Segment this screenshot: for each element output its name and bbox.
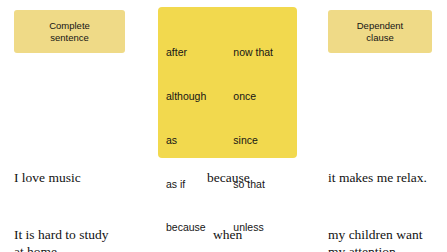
example-dependent-clause: it makes me relax. [328, 170, 427, 187]
conjunction-item: after [166, 45, 233, 60]
example-conjunction: when [213, 227, 242, 244]
label-box-complete-sentence: Complete sentence [14, 10, 125, 53]
example-row: It is hard to study at home when my chil… [0, 197, 447, 237]
example-row: I love music because it makes me relax. [0, 168, 447, 197]
conjunction-item: since [233, 133, 293, 148]
conjunction-item: as [166, 133, 233, 148]
conjunction-item: although [166, 89, 233, 104]
complete-sentence-line-1: Complete [49, 20, 90, 32]
label-box-dependent-clause: Dependent clause [328, 10, 432, 53]
dependent-clause-line-1: Dependent [357, 20, 403, 32]
example-independent-clause: It is hard to study at home [14, 227, 109, 252]
conjunction-item: once [233, 89, 293, 104]
example-dependent-clause: my children want my attention. [328, 227, 422, 252]
conjunction-item: now that [233, 45, 293, 60]
example-sentences: I love music because it makes me relax. … [0, 168, 447, 237]
sentence-structure-diagram: Complete sentence after although as as i… [0, 0, 447, 252]
conjunction-list-box: after although as as if because before e… [158, 7, 297, 158]
complete-sentence-line-2: sentence [50, 32, 89, 44]
dependent-clause-line-2: clause [366, 32, 393, 44]
example-independent-clause: I love music [14, 170, 81, 187]
example-conjunction: because [207, 170, 250, 187]
